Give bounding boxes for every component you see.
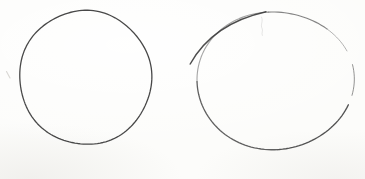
- left-circle-outline: [20, 10, 152, 144]
- sketch-svg: [0, 0, 365, 179]
- paper-canvas: [0, 0, 365, 179]
- right-ellipse-upper-left-light: [197, 12, 268, 82]
- right-ellipse-lower-right: [278, 105, 349, 150]
- margin-speck: [7, 72, 11, 79]
- right-ellipse-top-right: [268, 12, 327, 29]
- right-ellipse-right-mid: [352, 65, 354, 96]
- faint-smudge: [261, 17, 262, 36]
- right-ellipse-upper-right-faint: [327, 29, 347, 51]
- right-ellipse-bottom-left: [197, 82, 278, 150]
